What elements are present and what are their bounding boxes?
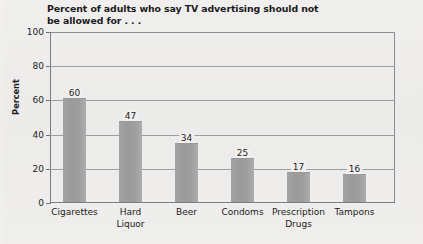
gridline-60	[50, 100, 395, 101]
bar-prescription-drugs[interactable]: 17	[287, 172, 310, 202]
bar-value-prescription-drugs: 17	[291, 162, 306, 172]
bar-value-condoms: 25	[235, 148, 250, 158]
bar-chart: Percent of adults who say TV advertising…	[0, 0, 423, 244]
chart-title-line-2: be allowed for . . .	[47, 15, 347, 27]
y-tick-mark-100	[46, 32, 50, 33]
y-tick-label-100: 100	[27, 27, 44, 37]
bar-value-hard-liquor: 47	[123, 111, 138, 121]
bar-tampons[interactable]: 16	[343, 174, 366, 202]
bar-value-tampons: 16	[347, 164, 362, 174]
x-label-prescription-drugs-line-2: Drugs	[259, 219, 339, 231]
gridline-80	[50, 66, 395, 67]
x-label-hard-liquor-line-2: Liquor	[91, 219, 171, 231]
bar-condoms[interactable]: 25	[231, 158, 254, 202]
plot-area: 100 80 60 40 20 0 60	[50, 32, 395, 203]
y-tick-mark-40	[46, 135, 50, 136]
plot-frame-top	[50, 32, 395, 33]
bar-hard-liquor[interactable]: 47	[119, 121, 142, 202]
y-tick-label-20: 20	[33, 164, 44, 174]
bar-value-cigarettes: 60	[67, 88, 82, 98]
y-tick-mark-20	[46, 169, 50, 170]
y-axis-title: Percent	[11, 67, 21, 127]
y-tick-mark-60	[46, 100, 50, 101]
gridline-20	[50, 169, 395, 170]
y-tick-mark-80	[46, 66, 50, 67]
bar-value-beer: 34	[179, 133, 194, 143]
chart-title-line-1: Percent of adults who say TV advertising…	[47, 3, 347, 15]
y-axis-line	[50, 32, 51, 204]
plot-frame-right	[394, 32, 395, 203]
bar-cigarettes[interactable]: 60	[63, 98, 86, 202]
bar-beer[interactable]: 34	[175, 143, 198, 202]
y-tick-label-60: 60	[33, 95, 44, 105]
gridline-40	[50, 135, 395, 136]
x-axis-line	[50, 202, 395, 203]
y-tick-mark-0	[46, 203, 50, 204]
x-label-tampons-line-1: Tampons	[315, 207, 395, 219]
y-tick-label-80: 80	[33, 61, 44, 71]
y-tick-label-40: 40	[33, 130, 44, 140]
chart-title: Percent of adults who say TV advertising…	[47, 3, 347, 28]
x-label-tampons: Tampons	[315, 207, 395, 219]
